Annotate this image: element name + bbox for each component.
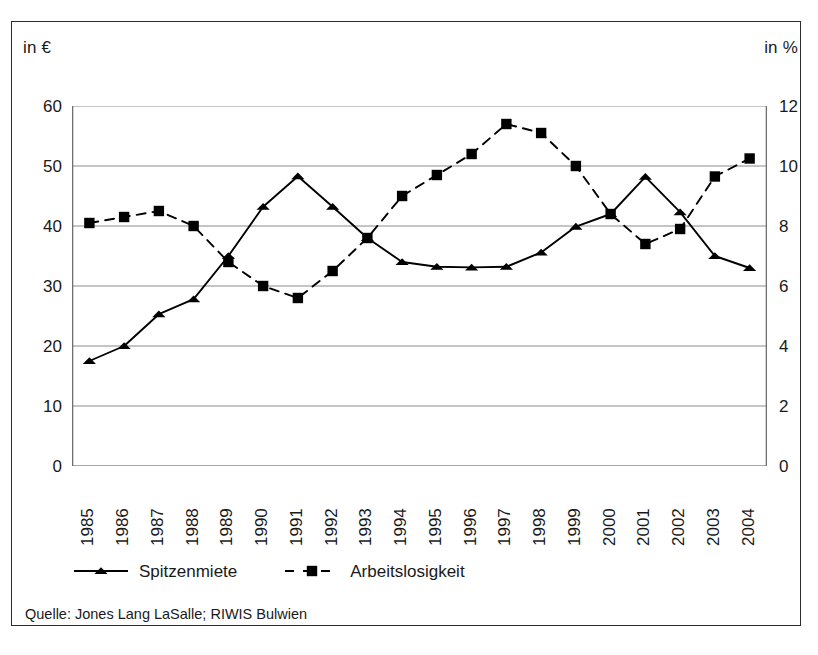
- right-axis-tick-4: 4: [779, 338, 788, 355]
- x-axis-tick-2002: 2002: [670, 508, 687, 546]
- left-axis-tick-20: 20: [43, 338, 62, 355]
- x-axis-tick-labels: 1985198619871988198919901991199219931994…: [72, 470, 767, 546]
- x-axis-tick-1994: 1994: [392, 508, 409, 546]
- chart-page: in € in % 0102030405060 024681012 198519…: [0, 0, 818, 655]
- left-axis-tick-0: 0: [53, 458, 62, 475]
- left-axis-tick-10: 10: [43, 398, 62, 415]
- x-axis-tick-1990: 1990: [253, 508, 270, 546]
- x-axis-tick-1988: 1988: [184, 508, 201, 546]
- x-axis-tick-2003: 2003: [705, 508, 722, 546]
- right-axis-tick-12: 12: [779, 98, 798, 115]
- right-axis-tick-0: 0: [779, 458, 788, 475]
- x-axis-tick-1998: 1998: [531, 508, 548, 546]
- left-axis-tick-labels: 0102030405060: [18, 106, 62, 466]
- x-axis-tick-1989: 1989: [218, 508, 235, 546]
- x-axis-tick-1985: 1985: [79, 508, 96, 546]
- x-axis-tick-1992: 1992: [323, 508, 340, 546]
- source-note: Quelle: Jones Lang LaSalle; RIWIS Bulwie…: [25, 606, 307, 622]
- left-axis-tick-50: 50: [43, 158, 62, 175]
- plot-area: [72, 106, 767, 466]
- legend-label: Arbeitslosigkeit: [350, 563, 464, 580]
- left-axis-tick-30: 30: [43, 278, 62, 295]
- right-axis-tick-10: 10: [779, 158, 798, 175]
- chart-canvas: [72, 106, 767, 466]
- x-axis-tick-1986: 1986: [114, 508, 131, 546]
- x-axis-tick-1997: 1997: [496, 508, 513, 546]
- right-axis-tick-2: 2: [779, 398, 788, 415]
- legend-item-arbeitslosigkeit[interactable]: Arbeitslosigkeit: [283, 562, 464, 580]
- legend-item-spitzenmiete[interactable]: Spitzenmiete: [72, 562, 237, 580]
- x-axis-tick-1991: 1991: [288, 508, 305, 546]
- x-axis-tick-1995: 1995: [427, 508, 444, 546]
- right-axis-tick-6: 6: [779, 278, 788, 295]
- x-axis-tick-2000: 2000: [601, 508, 618, 546]
- x-axis-tick-1996: 1996: [462, 508, 479, 546]
- left-axis-tick-60: 60: [43, 98, 62, 115]
- right-axis-tick-labels: 024681012: [779, 106, 809, 466]
- triangle-marker-icon: [72, 562, 130, 580]
- chart-legend: SpitzenmieteArbeitslosigkeit: [72, 558, 465, 584]
- left-axis-unit-label: in €: [23, 38, 51, 58]
- x-axis-tick-1999: 1999: [566, 508, 583, 546]
- right-axis-unit-label: in %: [764, 38, 798, 58]
- right-axis-tick-8: 8: [779, 218, 788, 235]
- x-axis-tick-1987: 1987: [149, 508, 166, 546]
- x-axis-tick-2004: 2004: [740, 508, 757, 546]
- left-axis-tick-40: 40: [43, 218, 62, 235]
- legend-label: Spitzenmiete: [139, 563, 237, 580]
- x-axis-tick-2001: 2001: [635, 508, 652, 546]
- x-axis-tick-1993: 1993: [357, 508, 374, 546]
- square-marker-icon: [283, 562, 341, 580]
